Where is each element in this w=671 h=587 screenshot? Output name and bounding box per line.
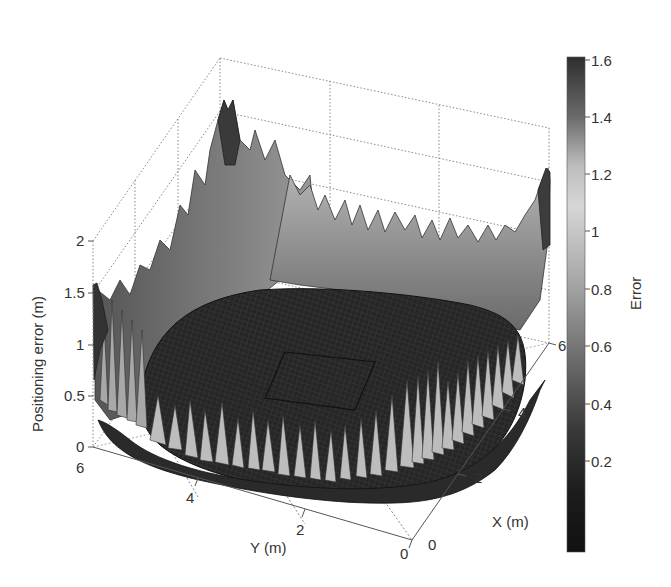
colorbar-tick-label: 0.6 [591,339,612,354]
y-axis-label: Y (m) [250,540,286,555]
y-tick-label: 0 [400,546,408,561]
colorbar-tick-label: 1.4 [591,110,612,125]
colorbar-tick-label: 0.4 [591,397,612,412]
y-tick-label: 4 [186,490,194,505]
z-tick-label: 0 [76,439,84,454]
z-axis-label: Positioning error (m) [30,296,45,432]
colorbar-tick-label: 1.2 [591,167,612,182]
colorbar-tick-label: 0.2 [591,454,612,469]
z-tick-label: 0.5 [64,388,85,403]
colorbar-label: Error [628,277,643,310]
surface-plot-figure: 2 1.5 1 0.5 0 6 4 2 0 0 2 4 6 Positionin… [0,0,671,587]
x-tick-label: 2 [474,470,482,485]
x-axis-label: X (m) [492,514,529,529]
colorbar [567,57,590,552]
z-tick-label: 1.5 [64,285,85,300]
y-tick-label: 6 [76,460,84,475]
x-tick-label: 6 [558,338,566,353]
colorbar-tick-label: 1.6 [591,53,612,68]
x-tick-label: 4 [518,405,526,420]
error-surface [93,100,550,503]
colorbar-tick-label: 1 [591,224,599,239]
colorbar-tick-label: 0.8 [591,282,612,297]
x-tick-label: 0 [428,537,436,552]
z-tick-label: 2 [76,233,84,248]
plot-area [0,0,671,587]
z-tick-label: 1 [76,337,84,352]
y-tick-label: 2 [296,522,304,537]
